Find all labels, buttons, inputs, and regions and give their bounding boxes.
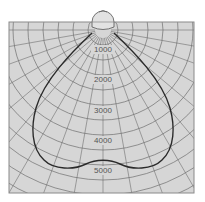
lamp-dome-icon (92, 11, 114, 30)
polar-diagram: 10002000300040005000 (0, 0, 205, 202)
intensity-label: 5000 (94, 166, 112, 175)
intensity-label: 3000 (94, 106, 112, 115)
intensity-label: 4000 (94, 136, 112, 145)
intensity-label: 1000 (94, 45, 112, 54)
intensity-label: 2000 (94, 75, 112, 84)
